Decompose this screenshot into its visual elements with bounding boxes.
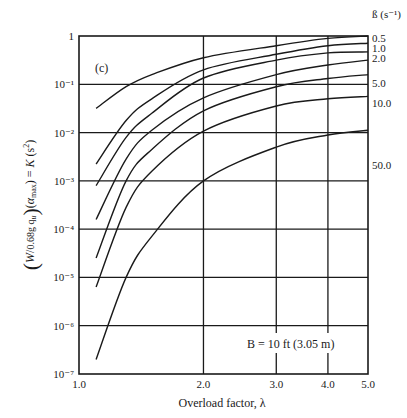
y-tick-label: 10⁻³ bbox=[54, 175, 75, 187]
x-tick-label: 1.0 bbox=[72, 378, 86, 390]
y-tick-label: 10⁻⁵ bbox=[53, 271, 74, 283]
y-tick-label: 10⁻⁶ bbox=[53, 320, 74, 332]
legend-label: 50.0 bbox=[372, 159, 392, 171]
x-tick-label: 3.0 bbox=[269, 378, 283, 390]
x-tick-label: 2.0 bbox=[197, 378, 211, 390]
y-axis-ticks: 110⁻¹10⁻²10⁻³10⁻⁴10⁻⁵10⁻⁶10⁻⁷ bbox=[53, 30, 74, 380]
legend: ß (s⁻¹)0.51.02.05.010.050.0 bbox=[372, 8, 401, 171]
y-tick-label: 10⁻² bbox=[54, 127, 75, 139]
x-axis-ticks: 1.02.03.04.05.0 bbox=[72, 378, 375, 390]
legend-title: ß (s⁻¹) bbox=[372, 8, 401, 21]
annotation-text: B = 10 ft (3.05 m) bbox=[247, 337, 334, 351]
chart: 110⁻¹10⁻²10⁻³10⁻⁴10⁻⁵10⁻⁶10⁻⁷ 1.02.03.04… bbox=[0, 0, 407, 418]
grid-lines bbox=[79, 36, 368, 374]
legend-label: 5.0 bbox=[372, 77, 386, 89]
y-tick-label: 10⁻⁴ bbox=[53, 223, 74, 235]
svg-text:(W/0.68g qu)(αmax) = K (s2): (W/0.68g qu)(αmax) = K (s2) bbox=[18, 140, 43, 271]
legend-label: 2.0 bbox=[372, 52, 386, 64]
curve-beta-0.5 bbox=[96, 36, 368, 108]
legend-label: 10.0 bbox=[372, 97, 392, 109]
x-axis-label: Overload factor, λ bbox=[179, 396, 266, 410]
y-tick-label: 10⁻¹ bbox=[54, 78, 74, 90]
x-tick-label: 4.0 bbox=[321, 378, 335, 390]
y-tick-label: 10⁻⁷ bbox=[53, 368, 74, 380]
y-tick-label: 1 bbox=[69, 30, 75, 42]
panel-label: (c) bbox=[95, 61, 108, 75]
curve-beta-1.0 bbox=[96, 43, 368, 164]
plot-frame bbox=[79, 36, 368, 374]
y-axis-label: (W/0.68g qu)(αmax) = K (s2) bbox=[18, 140, 43, 271]
x-tick-label: 5.0 bbox=[361, 378, 375, 390]
curve-beta-5.0 bbox=[96, 75, 368, 259]
